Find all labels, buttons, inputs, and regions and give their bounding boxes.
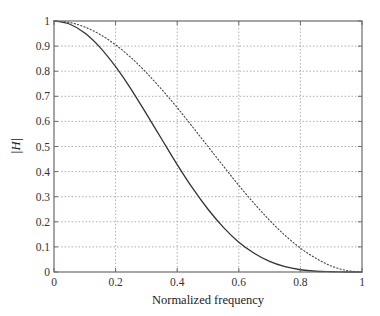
y-tick-label: 1 [44, 15, 50, 27]
chart: 00.20.40.60.81 00.10.20.30.40.50.60.70.8… [0, 0, 380, 316]
x-tick-label: 0.6 [232, 276, 247, 288]
y-tick-label: 0.6 [36, 115, 51, 127]
x-tick-label: 0.8 [293, 276, 308, 288]
x-axis-label: Normalized frequency [152, 293, 265, 307]
y-tick-label: 0.8 [36, 65, 51, 77]
y-tick-label: 0.3 [36, 191, 51, 203]
y-axis-label: |H| [9, 138, 23, 154]
x-tick-label: 0.2 [108, 276, 123, 288]
x-tick-label: 1 [359, 276, 365, 288]
y-tick-label: 0 [44, 266, 50, 278]
x-axis-ticks: 00.20.40.60.81 [51, 21, 365, 288]
y-tick-label: 0.1 [36, 241, 51, 253]
y-tick-label: 0.4 [36, 166, 51, 178]
x-tick-label: 0 [51, 276, 57, 288]
line-chart: 00.20.40.60.81 00.10.20.30.40.50.60.70.8… [0, 0, 380, 316]
x-tick-label: 0.4 [170, 276, 185, 288]
y-tick-label: 0.5 [36, 141, 51, 153]
y-tick-label: 0.7 [36, 90, 51, 102]
y-tick-label: 0.2 [36, 216, 51, 228]
y-tick-label: 0.9 [36, 40, 51, 52]
